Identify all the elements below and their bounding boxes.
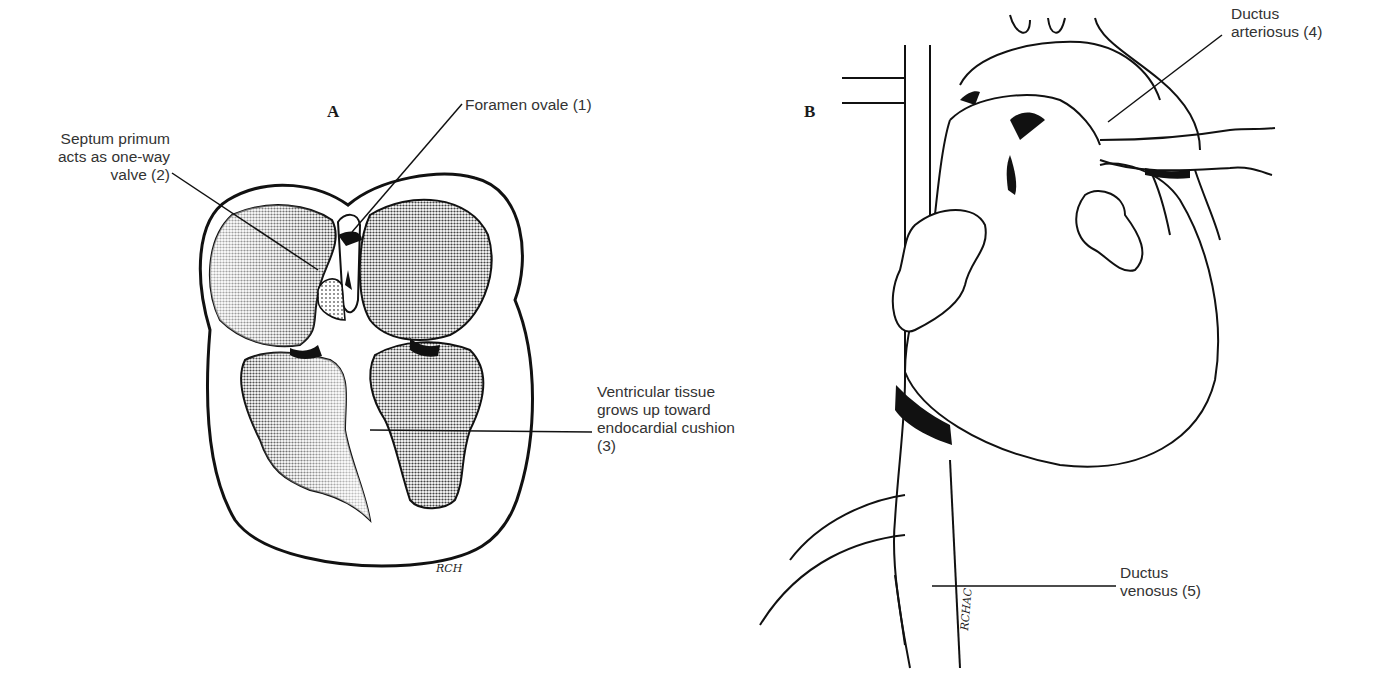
label-ductus-arteriosus: Ductus arteriosus (4) xyxy=(1231,5,1322,41)
panel-letter-b: B xyxy=(804,102,815,122)
label-foramen-ovale: Foramen ovale (1) xyxy=(465,96,592,114)
panel-a-heart-section xyxy=(200,174,532,566)
label-ventricular-tissue: Ventricular tissue grows up toward endoc… xyxy=(597,383,735,455)
leader-line-ductus-arteriosus xyxy=(1108,35,1222,122)
artist-signature-a: RCH xyxy=(436,562,462,575)
label-septum-primum: Septum primum acts as one-way valve (2) xyxy=(50,130,170,184)
panel-letter-a: A xyxy=(327,102,339,122)
label-ductus-venosus: Ductus venosus (5) xyxy=(1120,564,1201,600)
